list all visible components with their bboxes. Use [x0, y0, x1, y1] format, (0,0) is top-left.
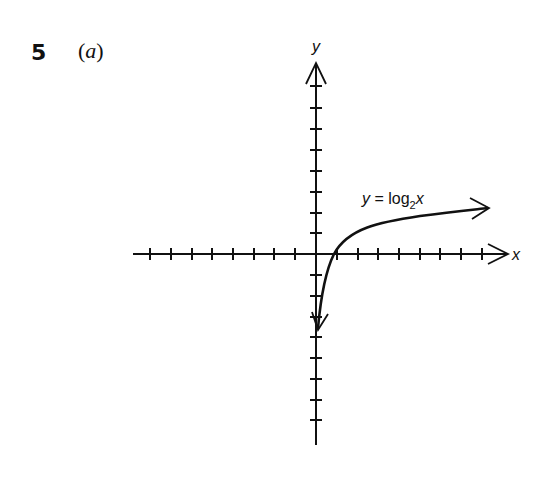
log-curve [318, 208, 488, 328]
x-axis-label: x [511, 246, 521, 263]
y-axis-label: y [311, 38, 321, 55]
curve-label: y = log2x [361, 190, 425, 211]
log-graph: x y y = log2x [0, 0, 546, 480]
curve-label-var: x [415, 190, 425, 207]
curve-label-log: log [388, 190, 409, 207]
